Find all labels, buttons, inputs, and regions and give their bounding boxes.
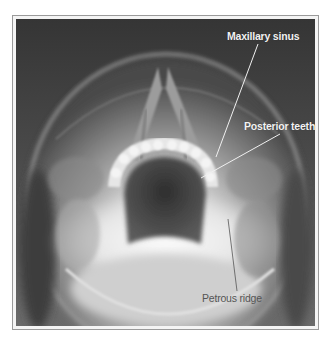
label-petrous-ridge: Petrous ridge: [202, 292, 262, 304]
radiograph-drawing: [16, 19, 315, 326]
skull-radiograph: [16, 19, 315, 326]
label-posterior-teeth: Posterior teeth: [244, 120, 315, 132]
label-maxillary-sinus: Maxillary sinus: [227, 30, 299, 42]
